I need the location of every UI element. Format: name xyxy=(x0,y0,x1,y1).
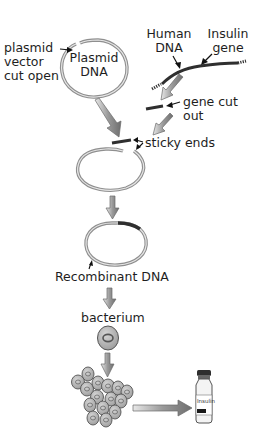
label-line: DNA xyxy=(69,65,119,79)
pointer-arrow-recombinant-dna xyxy=(89,260,93,269)
recombinant-dna-ring xyxy=(86,223,146,265)
insulin-vial-icon xyxy=(196,370,212,423)
pointer-arrow-human-dna xyxy=(173,56,181,69)
process-arrow-gene-to-sticky-ends xyxy=(153,113,173,135)
process-arrow-dna-to-gene xyxy=(161,74,183,100)
label-plasmid-vector: plasmid vector cut open xyxy=(4,41,59,83)
label-line: plasmid xyxy=(4,41,59,55)
label-sticky-ends: sticky ends xyxy=(145,136,215,150)
label-gene-cut-out: gene cut out xyxy=(183,95,238,123)
label-line: out xyxy=(183,109,238,123)
bacterium-cell xyxy=(98,326,119,350)
label-line: gene xyxy=(205,41,251,55)
gene-cut-out-fragment xyxy=(146,106,163,109)
label-line: vector xyxy=(4,55,59,69)
process-arrow-to-bacterium xyxy=(103,288,116,309)
label-human-dna: Human DNA xyxy=(146,27,192,55)
label-bacterium: bacterium xyxy=(81,311,145,325)
human-dna-strand xyxy=(152,61,246,89)
label-plasmid-dna: Plasmid DNA xyxy=(69,51,119,79)
process-arrow-to-recombinant xyxy=(106,196,119,219)
opened-plasmid-ring xyxy=(78,149,144,190)
label-recombinant-dna: Recombinant DNA xyxy=(55,270,169,284)
process-arrow-to-colony xyxy=(101,353,114,377)
label-line: Insulin xyxy=(205,27,251,41)
bacteria-colony xyxy=(72,367,134,427)
pointer-arrow-gene-cut-out xyxy=(166,102,180,108)
label-line: DNA xyxy=(146,41,192,55)
label-line: cut open xyxy=(4,69,59,83)
label-line: gene cut xyxy=(183,95,238,109)
process-arrow-to-insulin xyxy=(133,400,192,416)
pointer-arrow-sticky-ends xyxy=(133,137,143,150)
label-line: Human xyxy=(146,27,192,41)
label-insulin-gene: Insulin gene xyxy=(205,27,251,55)
process-arrow-plasmid-to-sticky-ends xyxy=(95,98,121,137)
vial-label-text: Insulin xyxy=(197,398,215,404)
sticky-ends-gene xyxy=(112,140,131,143)
label-line: Plasmid xyxy=(69,51,119,65)
